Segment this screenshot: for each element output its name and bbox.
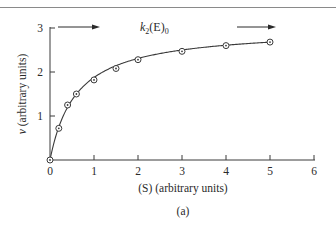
data-point — [47, 157, 53, 163]
data-point — [73, 91, 79, 97]
x-ticks: 0123456 — [47, 155, 317, 177]
y-tick-label: 3 — [37, 22, 43, 34]
chart: 0123456 123 k2(E)0 (S) (arbitrary units)… — [0, 0, 336, 226]
data-point — [135, 57, 141, 63]
x-tick-label: 1 — [91, 165, 97, 177]
fitted-curve — [50, 42, 270, 160]
y-axis-label: v (arbitrary units) — [16, 54, 29, 135]
data-point — [91, 77, 97, 83]
x-tick-label: 0 — [47, 165, 53, 177]
x-tick-label: 3 — [179, 165, 185, 177]
asymptote-arrow-right — [237, 25, 276, 30]
data-point — [56, 125, 62, 131]
data-point — [223, 43, 229, 49]
y-ticks: 123 — [37, 22, 55, 122]
x-tick-label: 5 — [267, 165, 273, 177]
data-point — [65, 102, 71, 108]
data-point — [179, 48, 185, 54]
x-tick-label: 6 — [311, 165, 317, 177]
x-tick-label: 2 — [135, 165, 141, 177]
x-axis-label: (S) (arbitrary units) — [138, 182, 228, 195]
data-point — [267, 39, 273, 45]
asymptote-arrow-left — [58, 25, 100, 30]
axes — [50, 27, 315, 160]
data-points — [47, 39, 273, 163]
y-axis-label-units: (arbitrary units) — [16, 54, 29, 130]
figure-caption: (a) — [177, 205, 190, 218]
data-point — [113, 65, 119, 71]
y-tick-label: 2 — [37, 66, 43, 78]
x-tick-label: 4 — [223, 165, 229, 177]
y-tick-label: 1 — [37, 110, 43, 122]
asymptote-label: k2(E)0 — [140, 20, 169, 36]
